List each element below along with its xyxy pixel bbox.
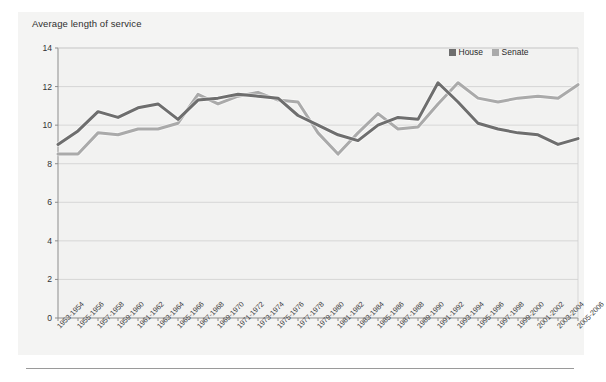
chart-legend: HouseSenate: [449, 47, 529, 57]
y-axis-label: 4: [32, 236, 52, 246]
y-axis-label: 12: [32, 82, 52, 92]
page-divider-rule: [26, 368, 574, 369]
y-axis-label: 8: [32, 159, 52, 169]
legend-label: Senate: [502, 47, 529, 57]
legend-swatch-icon: [449, 49, 456, 56]
legend-label: House: [459, 47, 484, 57]
legend-item-house[interactable]: House: [449, 47, 483, 57]
y-axis-label: 14: [32, 43, 52, 53]
y-axis-label: 6: [32, 197, 52, 207]
y-axis-label: 0: [32, 313, 52, 323]
legend-item-senate[interactable]: Senate: [492, 47, 528, 57]
legend-swatch-icon: [492, 49, 499, 56]
plot-background: [58, 48, 578, 318]
y-axis-label: 2: [32, 274, 52, 284]
y-axis-label: 10: [32, 120, 52, 130]
